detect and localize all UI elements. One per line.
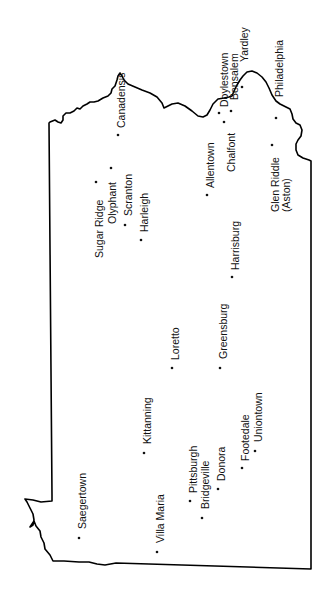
city-dot — [117, 134, 120, 137]
city-label: Saegertown — [76, 473, 88, 529]
city-dot — [95, 181, 98, 184]
city-sugar-ridge: Sugar Ridge — [93, 181, 105, 258]
city-label: Allentown — [204, 142, 216, 188]
city-label: Chalfont — [225, 133, 237, 172]
city-chalfont: Chalfont — [223, 121, 237, 172]
city-label: Scranton — [122, 174, 134, 216]
city-dot — [140, 239, 143, 242]
city-dot — [223, 121, 226, 124]
city-villa-maria: Villa Maria — [154, 494, 166, 553]
city-label: Uniontown — [252, 392, 264, 442]
city-label: Loretto — [169, 327, 181, 360]
city-dot — [171, 367, 174, 370]
city-label: Greensburg — [217, 303, 229, 359]
city-label: Philadelphia — [273, 40, 285, 97]
city-harleigh: Harleigh — [138, 193, 150, 242]
city-label: Footedale — [239, 414, 251, 461]
city-dot — [230, 110, 233, 113]
city-label: Canadensis — [115, 73, 127, 128]
city-label: Harrisburg — [229, 221, 241, 270]
city-dot — [201, 517, 204, 520]
city-kittanning: Kittanning — [141, 397, 153, 454]
city-dot — [217, 488, 220, 491]
city-dot — [271, 144, 274, 147]
city-loretto: Loretto — [169, 327, 181, 369]
city-label: Villa Maria — [154, 494, 166, 543]
city-dot — [219, 367, 222, 370]
city-donora: Donora — [215, 446, 227, 490]
city-allentown: Allentown — [204, 142, 216, 196]
city-bridgeville: Bridgeville — [199, 460, 211, 519]
city-dot — [156, 551, 159, 554]
city-harrisburg: Harrisburg — [229, 221, 241, 278]
city-label-secondary: (Aston) — [280, 178, 292, 212]
city-dot — [231, 276, 234, 279]
city-dot — [78, 537, 81, 540]
city-scranton: Scranton — [122, 174, 134, 226]
city-footedale: Footedale — [239, 414, 251, 469]
city-dot — [206, 194, 209, 197]
city-label: Bridgeville — [199, 460, 211, 509]
city-dot — [110, 167, 113, 170]
city-dot — [189, 500, 192, 503]
city-label: Donora — [215, 446, 227, 481]
city-dot — [218, 112, 221, 115]
city-label: Olyphant — [106, 182, 118, 224]
city-dot — [124, 224, 127, 227]
city-glen-riddle: Glen Riddle (Aston) — [269, 144, 292, 212]
state-border — [25, 71, 311, 569]
city-dot — [254, 450, 257, 453]
pennsylvania-map: Canadensis Doylestown Bensalem Yardley P… — [0, 0, 331, 608]
city-pittsburgh: Pittsburgh — [187, 446, 199, 503]
city-label: Sugar Ridge — [93, 199, 105, 258]
city-greensburg: Greensburg — [217, 303, 229, 369]
city-dot — [143, 452, 146, 455]
city-dot — [241, 467, 244, 470]
city-dot — [241, 86, 244, 89]
city-label: Pittsburgh — [187, 446, 199, 493]
city-label: Harleigh — [138, 193, 150, 232]
city-label: Yardley — [238, 26, 250, 62]
city-saegertown: Saegertown — [76, 473, 88, 539]
city-uniontown: Uniontown — [252, 392, 264, 452]
city-philadelphia: Philadelphia — [273, 40, 285, 120]
city-olyphant: Olyphant — [106, 167, 118, 224]
city-dot — [275, 117, 278, 120]
city-canadensis: Canadensis — [115, 73, 127, 137]
city-label: Kittanning — [141, 397, 153, 444]
